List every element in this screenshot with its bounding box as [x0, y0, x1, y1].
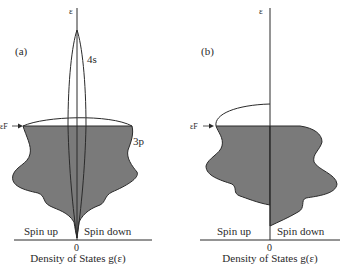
panel-a-4s-label: 4s — [87, 53, 97, 65]
panel-b-spin-up-label: Spin up — [217, 225, 251, 237]
panel-a-label: (a) — [15, 45, 28, 58]
panel-a-3p-label: 3p — [133, 135, 145, 147]
panel-a-energy-label: ε — [69, 6, 73, 16]
panel-b-x-axis-caption: Density of States g(ε) — [222, 252, 318, 264]
panel-a-fermi-arrowhead — [18, 124, 23, 129]
panel-b-fermi-arrowhead — [209, 124, 214, 129]
panel-a-spin-up-label: Spin up — [24, 225, 58, 237]
density-of-states-figure: ε (a) 4s 3p εF Spin up Spin down 0 Densi… — [0, 0, 345, 264]
panel-a-spin-down-label: Spin down — [84, 225, 132, 237]
panel-b-fermi-label: εF — [190, 122, 198, 131]
panel-b-spin-down-label: Spin down — [277, 225, 325, 237]
panel-b-unoccupied-curve — [216, 104, 270, 126]
panel-b-energy-label: ε — [259, 6, 263, 16]
panel-b: ε (b) εF Spin up Spin down 0 Density of … — [190, 6, 340, 264]
panel-a-x-axis-caption: Density of States g(ε) — [30, 252, 126, 264]
panel-b-label: (b) — [201, 45, 214, 58]
panel-b-spin-up-occupied-region — [206, 126, 270, 205]
panel-b-spin-down-occupied-region — [270, 126, 337, 226]
panel-a-fermi-label: εF — [0, 122, 8, 131]
panel-a: ε (a) 4s 3p εF Spin up Spin down 0 Densi… — [0, 6, 152, 264]
